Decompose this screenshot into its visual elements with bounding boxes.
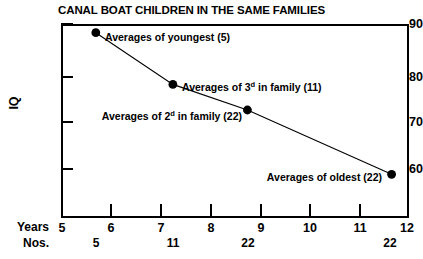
annotation-third-suffix: in family (11) (255, 81, 322, 93)
y-axis-tick-70 (61, 121, 73, 123)
x-axis-label-5: 5 (47, 221, 77, 235)
x-axis-label-6: 6 (96, 221, 126, 235)
annotation-second-suffix: in family (22) (175, 110, 242, 122)
x-axis-tick-10 (309, 204, 311, 218)
x-axis-tick-11 (359, 204, 361, 218)
x-axis-label-12: 12 (392, 221, 422, 235)
x-axis-label-9: 9 (246, 221, 276, 235)
nos-value-0: 5 (81, 237, 111, 250)
x-axis-tick-9 (260, 204, 262, 218)
y-axis-label-90: 90 (367, 18, 423, 30)
annotation-youngest-suffix: (5) (214, 31, 230, 43)
annotation-oldest-suffix: (22) (360, 171, 382, 183)
chart-title: CANAL BOAT CHILDREN IN THE SAME FAMILIES (58, 4, 408, 17)
annotation-oldest-prefix: Averages of oldest (267, 171, 361, 183)
y-axis-title: IQ (7, 96, 21, 109)
y-axis-tick-60 (61, 168, 73, 170)
chart-figure: CANAL BOAT CHILDREN IN THE SAME FAMILIES… (0, 0, 423, 259)
x-axis-tick-8 (210, 204, 212, 218)
annotation-oldest: Averages of oldest (22) (240, 171, 382, 183)
y-axis-label-80: 80 (367, 71, 423, 83)
x-axis-tick-6 (110, 204, 112, 218)
annotation-second-in-family: Averages of 2d in family (22) (84, 110, 242, 122)
y-axis-tick-90 (61, 23, 73, 25)
annotation-third-prefix: Averages of 3 (182, 81, 250, 93)
y-axis-tick-80 (61, 76, 73, 78)
y-axis-label-70: 70 (367, 116, 423, 128)
x-axis-label-8: 8 (196, 221, 226, 235)
x-axis-label-10: 10 (295, 221, 325, 235)
nos-value-1: 11 (158, 237, 188, 250)
annotation-second-prefix: Averages of 2 (102, 110, 170, 122)
row-header-nos: Nos. (0, 237, 49, 250)
row-header-years: Years (0, 221, 49, 234)
x-axis-tick-7 (160, 204, 162, 218)
annotation-third-in-family: Averages of 3d in family (11) (182, 81, 322, 93)
nos-value-2: 22 (233, 237, 263, 250)
nos-value-3: 22 (375, 237, 405, 250)
annotation-youngest: Averages of youngest (5) (105, 31, 230, 43)
x-axis-label-11: 11 (345, 221, 375, 235)
x-axis-label-7: 7 (146, 221, 176, 235)
annotation-youngest-prefix: Averages of youngest (105, 31, 214, 43)
